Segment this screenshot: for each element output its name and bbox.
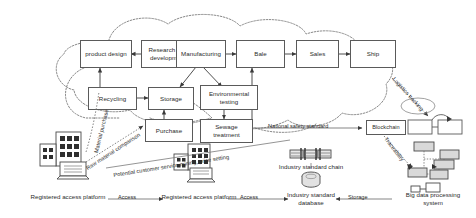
edge-label-logistics-tracking: Logistics tracking xyxy=(392,76,425,112)
diagram-canvas: product design Research and development … xyxy=(0,0,476,218)
caption-registered-access-platform-right: Registered access platform xyxy=(145,193,253,201)
caption-registered-access-platform-left: Registered access platform xyxy=(14,193,122,201)
edge-label-potential-customer-service: Potential customer service mining, price… xyxy=(113,154,229,178)
caption-industry-standard-chain: Industry standard chain xyxy=(267,163,355,171)
caption-big-data-processing-system: Big data processing system xyxy=(398,191,468,207)
caption-industry-standard-database: Industry standard database xyxy=(274,191,348,207)
edge-label-storage-link: Storage xyxy=(348,194,368,200)
edge-label-national-safety-standard: National safety standard xyxy=(268,123,328,129)
edge-label-traceability: Traceability xyxy=(383,136,405,162)
edge-label-material-purchase: Material purchase xyxy=(93,109,110,154)
